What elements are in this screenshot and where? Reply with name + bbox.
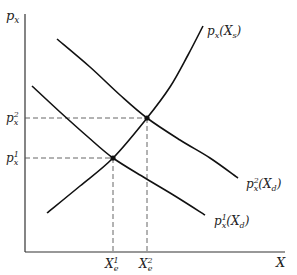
demand-curve-2	[57, 39, 238, 178]
equilibrium-point-1	[110, 155, 115, 160]
demand-curve-1	[32, 86, 205, 215]
supply-demand-chart: px X px(Xs) p2x(Xd) p1x(Xd) p2x p1x X1e …	[0, 0, 297, 275]
x-axis-label: X	[275, 255, 286, 270]
supply-curve	[47, 26, 203, 213]
guide-lines	[25, 118, 147, 252]
supply-curve-label: px(Xs)	[207, 24, 242, 40]
quantity-1-label: X1e	[104, 256, 119, 273]
y-axis-label: px	[6, 8, 19, 25]
price-2-label: p2x	[6, 110, 19, 127]
demand-curve-2-label: p2x(Xd)	[246, 176, 282, 193]
equilibrium-point-2	[144, 115, 149, 120]
demand-curve-1-label: p1x(Xd)	[214, 213, 250, 230]
quantity-2-label: X2e	[138, 256, 153, 273]
price-1-label: p1x	[6, 150, 19, 167]
